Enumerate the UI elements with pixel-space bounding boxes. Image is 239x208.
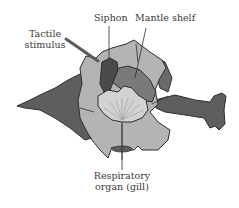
gill-label: Respiratory organ (gill) (92, 170, 152, 192)
tactile-stimulus-line2: stimulus (24, 39, 66, 50)
tail-region (155, 93, 226, 130)
gill-label-line1: Respiratory (92, 170, 152, 181)
tactile-probe (66, 39, 98, 61)
gill-label-line2: organ (gill) (92, 181, 152, 192)
aplysia-diagram: Siphon Mantle shelf Tactile stimulus Res… (0, 0, 239, 208)
tactile-stimulus-label: Tactile stimulus (24, 28, 66, 50)
siphon-label: Siphon (94, 12, 128, 23)
tactile-stimulus-line1: Tactile (24, 28, 66, 39)
mantle-shelf-label: Mantle shelf (135, 12, 195, 23)
